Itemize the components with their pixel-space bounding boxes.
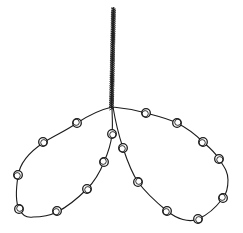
- beaded-loops-illustration: [0, 0, 243, 233]
- bead-right-15: [134, 178, 143, 187]
- sketch-canvas: [0, 0, 243, 233]
- bead-left-0: [73, 119, 82, 128]
- right-loop-wire: [113, 107, 228, 221]
- bead-left-2: [14, 171, 23, 180]
- bead-right-16: [119, 144, 128, 153]
- left-loop-wire: [16, 107, 112, 217]
- bead-left-5: [83, 185, 92, 194]
- bead-right-11: [215, 155, 224, 164]
- bead-right-12: [219, 194, 228, 203]
- bead-left-7: [108, 130, 117, 139]
- bead-left-3: [15, 205, 24, 214]
- twisted-stem: [110, 8, 116, 110]
- bead-right-14: [163, 207, 172, 216]
- bead-left-1: [39, 138, 48, 147]
- beads-group: [14, 109, 228, 224]
- bead-right-9: [173, 119, 182, 128]
- bead-left-4: [53, 207, 62, 216]
- bead-right-8: [142, 109, 151, 118]
- bead-right-10: [199, 138, 208, 147]
- bead-left-6: [100, 158, 109, 167]
- bead-right-13: [194, 215, 203, 224]
